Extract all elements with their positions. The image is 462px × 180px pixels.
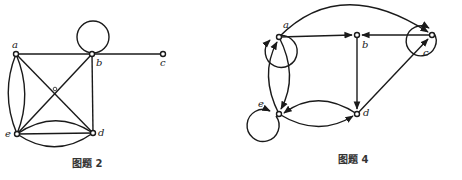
- node-b: [355, 33, 360, 38]
- edge-e-a-arc: [268, 42, 279, 114]
- node-label-b: b: [362, 40, 368, 50]
- edge-a-b: [279, 35, 352, 37]
- node-c: [430, 33, 435, 38]
- edge-e-e-loop: [247, 109, 279, 141]
- node-d: [355, 112, 360, 117]
- diagram-canvas: a b c d e 图题 2: [0, 0, 462, 180]
- node-e: [277, 112, 282, 117]
- node-label-d: d: [363, 108, 369, 118]
- edge-c-c-loop: [406, 26, 436, 56]
- edge-a-e-arc: [279, 37, 290, 109]
- edge-d-e-arc: [284, 101, 357, 114]
- edge-a-c-arc: [279, 5, 428, 37]
- edge-e-d-arc: [279, 114, 353, 127]
- edge-d-c: [357, 39, 428, 114]
- node-label-e: e: [258, 99, 264, 109]
- figure-4-graph: [0, 0, 462, 180]
- figure-4-caption: 图题 4: [338, 155, 368, 165]
- node-a: [277, 35, 282, 40]
- node-label-a: a: [283, 20, 289, 30]
- node-label-c: c: [423, 48, 429, 58]
